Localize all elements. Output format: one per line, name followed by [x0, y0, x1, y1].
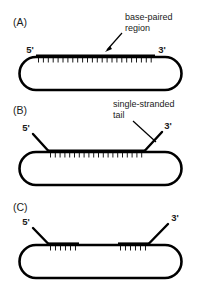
panel-b-letter: (B) [13, 104, 27, 116]
panel-b-three-prime-label: 3' [164, 120, 172, 131]
nucleic-acid-diagram: (A) base-paired region [0, 0, 203, 283]
panel-a-leader-line [105, 33, 122, 52]
panel-b-five-prime-label: 5' [22, 122, 30, 133]
panel-c-five-prime-tail [33, 228, 48, 244]
panel-b-callout-line1: single-stranded [113, 99, 175, 109]
panel-a-callout-line2: region [125, 23, 150, 33]
panel-a-three-prime-label: 3' [158, 44, 166, 55]
panel-a: (A) base-paired region [13, 12, 182, 90]
panel-a-callout-line1: base-paired [125, 12, 173, 22]
panel-c-molecule-body [20, 245, 182, 278]
panel-c-three-prime-tail [149, 224, 168, 244]
panel-a-five-prime-label: 5' [26, 44, 34, 55]
panel-b-molecule-body [20, 152, 182, 185]
panel-c: (C) 5' 3' [13, 201, 182, 278]
panel-c-letter: (C) [13, 201, 28, 213]
panel-b-five-prime-tail [33, 134, 48, 151]
panel-b-leader-line [133, 121, 156, 142]
panel-a-letter: (A) [13, 16, 27, 28]
panel-b: (B) single-stranded tail [13, 99, 182, 185]
panel-b-callout-line2: tail [113, 110, 125, 120]
panel-c-five-prime-label: 5' [22, 216, 30, 227]
panel-c-three-prime-label: 3' [171, 212, 179, 223]
